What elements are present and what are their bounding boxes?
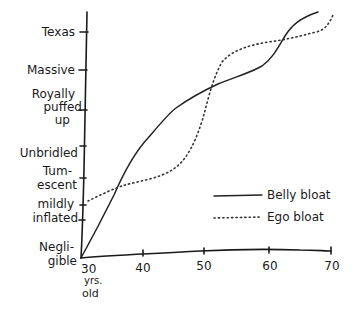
legend: Belly bloat Ego bloat	[214, 188, 331, 224]
y-label-royally: Royally	[32, 87, 75, 101]
legend-swatch-ego	[214, 217, 262, 218]
x-label-50: 50	[196, 259, 211, 273]
x-label-70: 70	[324, 259, 339, 273]
y-label-massive: Massive	[27, 63, 75, 77]
y-label-gible: gible	[48, 254, 77, 268]
y-label-unbridled: Unbridled	[20, 146, 78, 160]
y-label-tum: Tum-	[42, 164, 72, 178]
y-label-escent: escent	[37, 178, 77, 192]
y-label-negli: Negli-	[39, 240, 74, 254]
legend-swatch-belly	[214, 195, 262, 196]
legend-label-ego: Ego bloat	[267, 210, 324, 224]
bloat-chart: Texas Massive Royally puffed up Unbridle…	[0, 0, 356, 312]
y-label-texas: Texas	[41, 25, 75, 39]
x-label-30: 30	[81, 262, 96, 276]
y-axis	[81, 12, 87, 258]
x-sublabel-yrs: yrs.	[84, 275, 102, 286]
y-labels: Texas Massive Royally puffed up Unbridle…	[20, 25, 82, 268]
legend-label-belly: Belly bloat	[267, 188, 331, 202]
x-axis	[81, 249, 331, 258]
x-labels: 30 40 50 60 70 yrs. old	[81, 259, 340, 300]
y-label-up: up	[55, 113, 70, 127]
y-label-mildly: mildly	[38, 197, 74, 211]
x-ticks	[143, 247, 331, 256]
x-sublabel-old: old	[82, 287, 99, 300]
y-label-puffed: puffed	[44, 100, 83, 114]
y-label-inflated: inflated	[32, 211, 78, 225]
x-label-40: 40	[135, 261, 150, 275]
x-label-60: 60	[262, 259, 277, 273]
